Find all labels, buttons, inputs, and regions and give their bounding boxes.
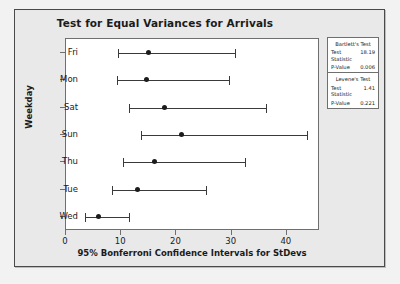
interval-cap-lower (85, 213, 86, 222)
interval-line (118, 53, 235, 54)
interval-line (123, 162, 245, 163)
interval-point-estimate (96, 214, 101, 219)
bartlett-test-block: Bartlett's Test Test Statistic 18.19 P-V… (328, 38, 378, 72)
stats-panel: Bartlett's Test Test Statistic 18.19 P-V… (327, 37, 379, 109)
confidence-interval-wed (66, 211, 318, 223)
chart-title: Test for Equal Variances for Arrivals (15, 17, 315, 29)
confidence-interval-fri (66, 47, 318, 59)
x-tick-label-10: 10 (105, 236, 135, 246)
x-tick-mark (120, 230, 121, 235)
interval-cap-lower (117, 76, 118, 85)
y-tick-label-mon: Mon (18, 74, 78, 84)
interval-point-estimate (162, 105, 167, 110)
interval-cap-lower (123, 158, 124, 167)
interval-cap-lower (112, 186, 113, 195)
interval-line (117, 80, 230, 81)
x-tick-mark (286, 230, 287, 235)
bartlett-statistic-label: Test Statistic (331, 49, 360, 62)
interval-cap-upper (129, 213, 130, 222)
x-tick-mark (175, 230, 176, 235)
x-tick-mark (65, 230, 66, 235)
x-tick-label-40: 40 (271, 236, 301, 246)
levene-pvalue-value: 0.221 (360, 100, 375, 107)
plot-area (65, 38, 319, 230)
interval-cap-lower (129, 104, 130, 113)
interval-point-estimate (144, 77, 149, 82)
levene-statistic-row: Test Statistic 1.41 (328, 84, 378, 99)
x-axis-label: 95% Bonferroni Confidence Intervals for … (65, 248, 319, 258)
bartlett-statistic-value: 18.19 (360, 49, 375, 62)
y-tick-label-fri: Fri (18, 47, 78, 57)
confidence-interval-thu (66, 156, 318, 168)
bartlett-pvalue-label: P-Value (331, 64, 350, 71)
y-tick-label-sat: Sat (18, 102, 78, 112)
confidence-interval-sun (66, 129, 318, 141)
interval-point-estimate (179, 132, 184, 137)
bartlett-statistic-row: Test Statistic 18.19 (328, 49, 378, 64)
interval-cap-upper (229, 76, 230, 85)
interval-line (141, 135, 308, 136)
interval-cap-upper (266, 104, 267, 113)
chart-figure: Test for Equal Variances for Arrivals We… (14, 9, 385, 267)
y-tick-label-sun: Sun (18, 129, 78, 139)
x-tick-label-0: 0 (50, 236, 80, 246)
levene-statistic-value: 1.41 (363, 85, 375, 98)
plot-inner (66, 39, 318, 229)
y-tick-label-tue: Tue (18, 184, 78, 194)
confidence-interval-tue (66, 184, 318, 196)
bartlett-heading: Bartlett's Test (328, 38, 378, 49)
interval-cap-upper (235, 49, 236, 58)
interval-point-estimate (152, 159, 157, 164)
interval-line (129, 108, 266, 109)
levene-test-block: Levene's Test Test Statistic 1.41 P-Valu… (328, 72, 378, 107)
interval-line (85, 217, 129, 218)
confidence-interval-sat (66, 102, 318, 114)
interval-line (112, 190, 205, 191)
x-tick-label-30: 30 (216, 236, 246, 246)
bartlett-pvalue-row: P-Value 0.006 (328, 64, 378, 73)
bartlett-pvalue-value: 0.006 (360, 64, 375, 71)
interval-cap-upper (245, 158, 246, 167)
y-tick-label-wed: Wed (18, 211, 78, 221)
interval-cap-lower (141, 131, 142, 140)
levene-statistic-label: Test Statistic (331, 85, 363, 98)
interval-cap-lower (118, 49, 119, 58)
x-tick-label-20: 20 (160, 236, 190, 246)
y-tick-label-thu: Thu (18, 156, 78, 166)
interval-cap-upper (307, 131, 308, 140)
interval-cap-upper (206, 186, 207, 195)
levene-heading: Levene's Test (328, 73, 378, 84)
levene-pvalue-label: P-Value (331, 100, 350, 107)
confidence-interval-mon (66, 74, 318, 86)
levene-pvalue-row: P-Value 0.221 (328, 99, 378, 108)
interval-point-estimate (146, 50, 151, 55)
interval-point-estimate (135, 187, 140, 192)
x-tick-mark (231, 230, 232, 235)
